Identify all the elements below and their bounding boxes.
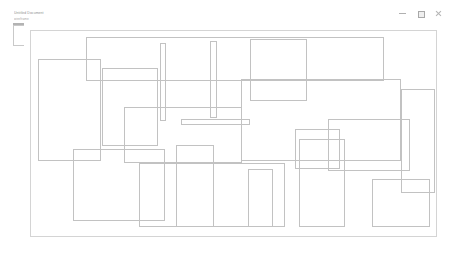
minimize-icon [399, 13, 406, 14]
left-edge-bracket[interactable] [13, 25, 24, 46]
wireframe-rect-right-edge-tall[interactable] [401, 89, 435, 193]
wireframe-rect-lower-mid-tall[interactable] [299, 139, 345, 227]
window-title-primary: Untitled Document [14, 11, 74, 16]
app-window: Untitled Document wireframe [0, 0, 454, 256]
window-controls [398, 9, 443, 18]
bracket-cap-icon [13, 23, 24, 25]
maximize-button[interactable] [416, 9, 425, 18]
window-title-secondary: wireframe [14, 17, 74, 22]
canvas-viewport[interactable] [30, 30, 437, 237]
wireframe-rect-top-band[interactable] [86, 37, 384, 81]
title-bar: Untitled Document wireframe [0, 0, 454, 30]
maximize-icon [418, 11, 425, 18]
close-button[interactable] [434, 9, 443, 18]
wireframe-rect-mid-crossing[interactable] [124, 107, 242, 163]
wireframe-rect-bottom-wide[interactable] [139, 163, 285, 227]
wireframe-shape-layer [31, 31, 436, 236]
minimize-button[interactable] [398, 9, 407, 18]
